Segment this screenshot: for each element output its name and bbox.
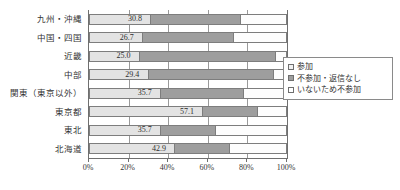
legend-item[interactable]: 参加: [288, 61, 388, 73]
legend-item[interactable]: いないため不参加: [288, 84, 388, 96]
bar-value-label: 29.4: [125, 71, 139, 79]
bar-segment-2: [174, 144, 230, 153]
bar-segment-2: [150, 15, 240, 24]
bar-value-label: 35.7: [138, 89, 152, 97]
stacked-bar: [89, 88, 287, 99]
stacked-bar: [89, 69, 287, 80]
x-axis-tick: [128, 158, 129, 162]
stacked-bar: [89, 143, 287, 154]
bar-row: 35.7: [89, 121, 287, 140]
bar-row: 26.7: [89, 29, 287, 48]
bar-segment-3: [216, 126, 286, 135]
bar-segment-2: [148, 70, 275, 79]
bar-segment-3: [234, 33, 286, 42]
legend-item-label: 参加: [297, 61, 313, 73]
legend-swatch-icon: [288, 75, 294, 81]
y-axis-category-label: 近畿: [0, 47, 87, 66]
bar-value-label: 57.1: [180, 108, 194, 116]
x-axis-tick: [88, 158, 89, 162]
legend-swatch-icon: [288, 64, 294, 70]
x-axis-tick: [167, 158, 168, 162]
bar-row: 42.9: [89, 140, 287, 159]
legend-item-label: いないため不参加: [297, 84, 361, 96]
bar-segment-1: [90, 33, 142, 42]
bar-segment-2: [202, 107, 258, 116]
bar-value-label: 30.8: [128, 15, 142, 23]
legend-item[interactable]: 不参加・返信なし: [288, 73, 388, 85]
y-axis-category-label: 東北: [0, 121, 87, 140]
bar-value-label: 42.9: [152, 145, 166, 153]
y-axis-category-label: 九州・沖縄: [0, 10, 87, 29]
y-axis-category-label: 関東（東京以外）: [0, 84, 87, 103]
x-axis-tick-label: 100%: [277, 164, 296, 172]
bar-value-label: 26.7: [120, 34, 134, 42]
bar-segment-2: [139, 52, 276, 61]
y-axis-category-label: 東京都: [0, 103, 87, 122]
bar-segment-2: [160, 89, 244, 98]
y-axis-category-label: 中部: [0, 66, 87, 85]
bar-segment-3: [241, 15, 286, 24]
y-axis-category-label: 北海道: [0, 140, 87, 159]
bar-segment-3: [244, 89, 286, 98]
x-axis-tick-labels: 0%20%40%60%80%100%: [88, 164, 286, 178]
legend-item-label: 不参加・返信なし: [297, 73, 361, 85]
x-axis-tick-label: 60%: [199, 164, 214, 172]
stacked-bar: [89, 32, 287, 43]
bar-segment-1: [90, 52, 139, 61]
stacked-bar: [89, 125, 287, 136]
x-axis-tick-label: 20%: [120, 164, 135, 172]
x-axis-tick: [246, 158, 247, 162]
chart-legend: 参加不参加・返信なしいないため不参加: [283, 57, 393, 100]
stacked-bar: [89, 14, 287, 25]
stacked-bar-chart: 九州・沖縄中国・四国近畿中部関東（東京以外）東京都東北北海道 30.826.72…: [0, 0, 400, 190]
x-axis-tick: [286, 158, 287, 162]
bar-value-label: 25.0: [117, 52, 131, 60]
y-axis-category-labels: 九州・沖縄中国・四国近畿中部関東（東京以外）東京都東北北海道: [0, 10, 87, 158]
bar-segment-2: [142, 33, 233, 42]
y-axis-category-label: 中国・四国: [0, 29, 87, 48]
bar-row: 57.1: [89, 103, 287, 122]
x-axis-tick-label: 40%: [160, 164, 175, 172]
bar-segment-2: [160, 126, 216, 135]
bar-row: 25.0: [89, 47, 287, 66]
plot-area: 30.826.725.029.435.757.135.742.9: [88, 10, 288, 158]
x-axis-ticks: [88, 158, 286, 162]
bar-segment-3: [258, 107, 286, 116]
x-axis-tick-label: 80%: [239, 164, 254, 172]
bar-rows: 30.826.725.029.435.757.135.742.9: [89, 10, 287, 158]
x-axis-tick-label: 0%: [83, 164, 94, 172]
bar-row: 30.8: [89, 10, 287, 29]
legend-swatch-icon: [288, 87, 294, 93]
x-axis-tick: [207, 158, 208, 162]
bar-value-label: 35.7: [138, 126, 152, 134]
bar-segment-3: [230, 144, 286, 153]
bar-row: 29.4: [89, 66, 287, 85]
bar-row: 35.7: [89, 84, 287, 103]
